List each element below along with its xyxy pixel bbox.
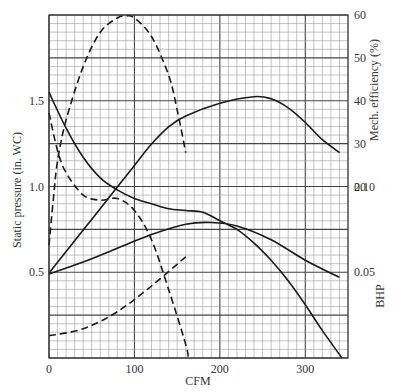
efficiency-tick-label: 60 (354, 8, 366, 22)
efficiency-tick-label: 50 (354, 51, 366, 65)
bhp-tick-label: 0.05 (354, 265, 375, 279)
x-axis-title: CFM (185, 374, 211, 388)
y-axis-efficiency-title: Mech. efficiency (%) (367, 39, 381, 141)
x-tick-label: 100 (125, 362, 143, 376)
efficiency-tick-label: 40 (354, 94, 366, 108)
fan-performance-chart: 01002003001.51.00.560504030200.100.05 CF… (0, 0, 395, 392)
x-tick-label: 200 (211, 362, 229, 376)
y-axis-left-title: Static pressure (in. WC) (10, 132, 24, 248)
x-tick-label: 0 (46, 362, 52, 376)
tick-labels: 01002003001.51.00.560504030200.100.05 (29, 8, 375, 376)
pressure-tick-label: 0.5 (29, 265, 44, 279)
x-tick-label: 300 (296, 362, 314, 376)
pressure-tick-label: 1.0 (29, 180, 44, 194)
y-axis-bhp-title: BHP (373, 284, 387, 308)
efficiency-tick-label: 30 (354, 137, 366, 151)
bhp-tick-label: 0.10 (354, 180, 375, 194)
curve-pressure-solid (49, 92, 342, 358)
curve-pressure-dashed (49, 113, 188, 358)
plot-grid (49, 15, 348, 358)
pressure-tick-label: 1.5 (29, 94, 44, 108)
